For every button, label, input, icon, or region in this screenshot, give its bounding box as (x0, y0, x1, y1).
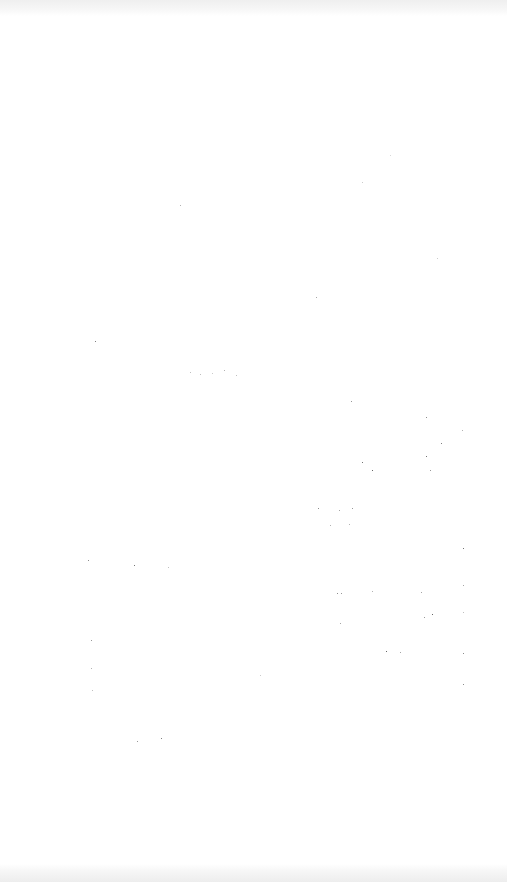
noise-dot (351, 401, 352, 402)
noise-dot (337, 593, 338, 594)
noise-dot (212, 373, 213, 374)
status-bar-area (0, 0, 507, 16)
noise-dot (190, 372, 191, 373)
noise-dot (134, 565, 135, 566)
noise-dot (318, 508, 319, 509)
noise-dot (236, 375, 237, 376)
noise-dot (432, 614, 433, 615)
noise-dot (92, 690, 93, 691)
noise-dot (462, 430, 463, 431)
noise-dot (161, 738, 162, 739)
noise-dot (362, 182, 363, 183)
noise-dot (424, 617, 425, 618)
noise-dot (400, 652, 401, 653)
noise-dot (463, 684, 464, 685)
noise-dot (352, 508, 353, 509)
noise-dot (463, 548, 464, 549)
noise-dot (88, 560, 89, 561)
noise-dot (224, 370, 225, 371)
noise-dot (168, 567, 169, 568)
noise-dot (341, 593, 342, 594)
noise-dot (200, 374, 201, 375)
noise-dot (339, 510, 340, 511)
noise-dot (372, 591, 373, 592)
noise-dot (362, 462, 363, 463)
noise-dot (430, 470, 431, 471)
noise-dot (426, 417, 427, 418)
blank-screen-body (0, 16, 507, 864)
noise-dot (463, 585, 464, 586)
noise-dot (316, 297, 317, 298)
noise-dot (441, 443, 442, 444)
noise-dot (330, 525, 331, 526)
noise-dot (91, 640, 92, 641)
noise-dot (340, 623, 341, 624)
noise-dot (386, 651, 387, 652)
noise-dot (463, 612, 464, 613)
noise-dot (95, 341, 96, 342)
noise-dot (349, 524, 350, 525)
noise-dot (91, 668, 92, 669)
noise-dot (437, 258, 438, 259)
noise-dot (390, 155, 391, 156)
noise-dot (137, 741, 138, 742)
noise-dot (372, 470, 373, 471)
navigation-bar-area (0, 864, 507, 882)
noise-dot (463, 653, 464, 654)
noise-dot (426, 456, 427, 457)
noise-dot (421, 592, 422, 593)
noise-dot (180, 205, 181, 206)
noise-dot (260, 675, 261, 676)
